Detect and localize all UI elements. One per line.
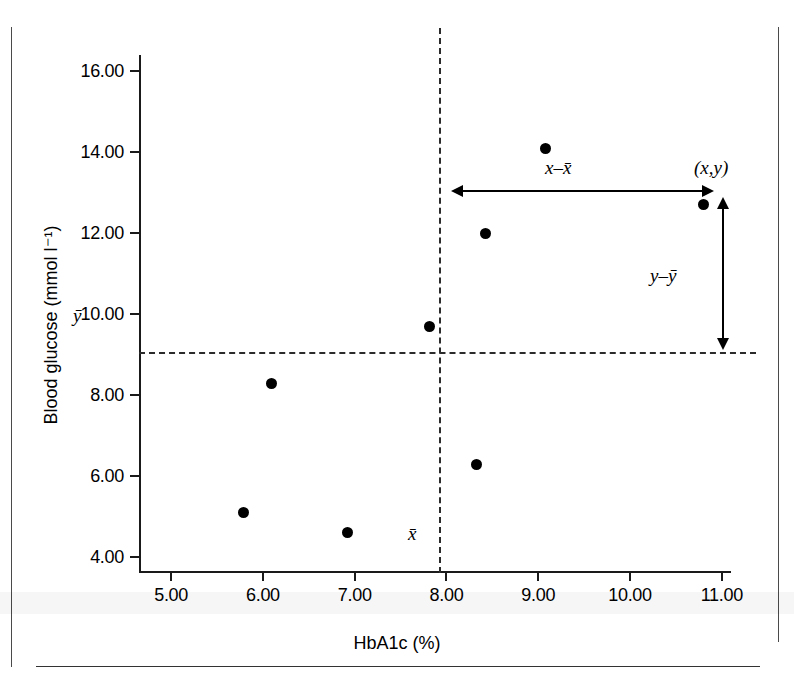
y-axis-title: Blood glucose (mmol l⁻¹) — [40, 85, 62, 565]
x-tick-mark — [262, 571, 264, 581]
y-tick-mark — [130, 70, 140, 72]
y-deviation-label: y–ȳ — [650, 265, 676, 287]
y-deviation-arrowhead-bottom — [717, 338, 729, 350]
x-tick-label: 10.00 — [590, 586, 670, 604]
x-tick-label: 7.00 — [315, 586, 395, 604]
y-deviation-arrow-line — [722, 205, 724, 345]
mean-x-label: x̄ — [408, 523, 416, 545]
y-tick-mark — [130, 313, 140, 315]
data-point — [424, 321, 435, 332]
y-tick-label: 6.00 — [60, 467, 124, 485]
y-tick-label: 12.00 — [60, 224, 124, 242]
y-tick-label: 10.00 — [60, 305, 124, 323]
x-deviation-arrow-line — [458, 190, 708, 192]
x-tick-label: 11.00 — [682, 586, 762, 604]
y-tick-label: 14.00 — [60, 143, 124, 161]
y-deviation-arrowhead-top — [717, 197, 729, 209]
y-tick-mark — [130, 394, 140, 396]
page-border-right — [778, 27, 779, 642]
y-tick-mark — [130, 151, 140, 153]
x-deviation-arrowhead-left — [451, 185, 463, 197]
x-tick-mark — [721, 571, 723, 581]
y-tick-mark — [130, 556, 140, 558]
y-tick-label: 4.00 — [60, 548, 124, 566]
y-tick-mark — [130, 475, 140, 477]
data-point — [342, 527, 353, 538]
x-tick-label: 9.00 — [498, 586, 578, 604]
data-point — [480, 228, 491, 239]
x-tick-mark — [354, 571, 356, 581]
data-point — [266, 378, 277, 389]
figure-page: 4.006.008.0010.0012.0014.0016.00 5.006.0… — [0, 0, 794, 684]
x-tick-mark — [629, 571, 631, 581]
y-tick-mark — [130, 232, 140, 234]
data-point — [698, 199, 709, 210]
mean-y-dashed-line — [139, 352, 756, 354]
data-point — [471, 459, 482, 470]
mean-y-label: ȳ — [73, 305, 81, 327]
mean-x-dashed-line — [439, 28, 441, 573]
y-tick-label: 8.00 — [60, 386, 124, 404]
y-tick-label: 16.00 — [60, 62, 124, 80]
page-border-bottom — [36, 666, 760, 667]
x-tick-mark — [537, 571, 539, 581]
x-deviation-arrowhead-right — [702, 185, 714, 197]
x-tick-mark — [170, 571, 172, 581]
scan-artifact-band — [0, 592, 794, 614]
data-point — [238, 507, 249, 518]
x-tick-label: 6.00 — [223, 586, 303, 604]
page-border-left — [11, 27, 12, 667]
x-tick-mark — [445, 571, 447, 581]
x-axis-title: HbA1c (%) — [0, 633, 794, 654]
x-tick-label: 8.00 — [406, 586, 486, 604]
x-deviation-label: x–x̄ — [545, 157, 571, 179]
x-tick-label: 5.00 — [131, 586, 211, 604]
x-axis-line — [139, 571, 731, 573]
data-point — [540, 143, 551, 154]
point-coordinate-label: (x,y) — [694, 157, 728, 179]
